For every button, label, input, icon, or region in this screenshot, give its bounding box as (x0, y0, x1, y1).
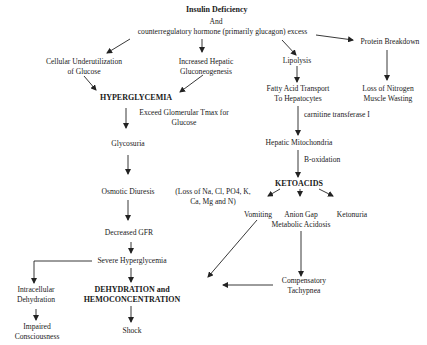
node-line: Loss of Nitrogen (358, 84, 418, 94)
node-ketonuria: Ketonuria (332, 210, 372, 220)
node-protein-breakdown: Protein Breakdown (355, 37, 425, 47)
arrow-vomiting-to-dehydration (208, 220, 257, 277)
node-fatty-acid-transport: Fatty Acid Transport To Hepatocytes (262, 84, 334, 103)
arrow-cellular-to-hyperglycemia (84, 76, 96, 90)
node-hyperglycemia: HYPERGLYCEMIA (96, 93, 176, 103)
node-line: Glucose (133, 118, 235, 128)
node-line: Tachypnea (278, 286, 330, 296)
node-line: HEMOCONCENTRATION (82, 295, 182, 305)
node-insulin-deficiency: Insulin Deficiency (186, 5, 246, 15)
dka-pathophysiology-diagram: Insulin Deficiency And counterregulatory… (0, 0, 427, 345)
node-cellular-underutilization: Cellular Underutilization of Glucose (40, 57, 128, 76)
node-impaired-consciousness: Impaired Consciousness (12, 322, 62, 341)
node-dehydration-hemoconcentration: DEHYDRATION and HEMOCONCENTRATION (82, 285, 182, 304)
edge-label-glomerular-tmax: Exceed Glomerular Tmax for Glucose (133, 108, 235, 127)
node-hepatic-mitochondria: Hepatic Mitochondria (260, 138, 338, 148)
node-line: Muscle Wasting (358, 94, 418, 104)
node-line: Gluconeogenesis (168, 67, 244, 77)
node-lipolysis: Lipolysis (274, 56, 320, 66)
node-line: DEHYDRATION and (82, 285, 182, 295)
arrow-ketoacids-to-vomiting (268, 189, 280, 196)
node-shock: Shock (112, 326, 152, 336)
node-loss-of-nitrogen: Loss of Nitrogen Muscle Wasting (358, 84, 418, 103)
node-severe-hyperglycemia: Severe Hyperglycemia (92, 256, 172, 266)
arrow-gluconeogenesis-to-hyperglycemia (180, 75, 203, 92)
node-glycosuria: Glycosuria (100, 139, 156, 149)
node-line: Impaired (12, 322, 62, 332)
node-line: Exceed Glomerular Tmax for (133, 108, 235, 118)
node-line: Anion Gap (270, 210, 332, 220)
arrow-layer (0, 0, 427, 345)
node-line: (Loss of Na, Cl, PO4, K, (170, 187, 256, 197)
node-intracellular-dehydration: Intracellular Dehydration (14, 285, 58, 304)
node-line: of Glucose (40, 67, 128, 77)
arrow-ketoacids-to-ketonuria (319, 189, 333, 196)
node-electrolyte-loss: (Loss of Na, Cl, PO4, K, Ca, Mg and N) (170, 187, 256, 206)
node-increased-hepatic-gluconeogenesis: Increased Hepatic Gluconeogenesis (168, 57, 244, 76)
node-compensatory-tachypnea: Compensatory Tachypnea (278, 276, 330, 295)
arrow-to-protein-breakdown (316, 35, 353, 40)
node-line: Compensatory (278, 276, 330, 286)
node-osmotic-diuresis: Osmotic Diuresis (96, 187, 160, 197)
node-line: Increased Hepatic (168, 57, 244, 67)
node-line: Dehydration (14, 295, 58, 305)
node-line: Ca, Mg and N) (170, 197, 256, 207)
node-line: Fatty Acid Transport (262, 84, 334, 94)
node-ketoacids: KETOACIDS (270, 179, 328, 189)
edge-label-carnitine-transferase: carnitine transferase I (304, 110, 370, 120)
arrow-severe-to-intracellular (34, 261, 92, 283)
edge-label-b-oxidation: B-oxidation (304, 155, 340, 165)
node-counterregulatory-excess: counterregulatory hormone (primarily glu… (130, 27, 315, 37)
node-decreased-gfr: Decreased GFR (98, 228, 160, 238)
node-line: Consciousness (12, 332, 62, 342)
arrow-to-lipolysis (282, 40, 296, 55)
arrow-to-cellular-underutilization (107, 39, 130, 53)
node-line: Metabolic Acidosis (270, 220, 332, 230)
node-and: And (196, 17, 236, 27)
node-anion-gap-acidosis: Anion Gap Metabolic Acidosis (270, 210, 332, 229)
node-line: Cellular Underutilization (40, 57, 128, 67)
node-line: To Hepatocytes (262, 94, 334, 104)
node-line: Intracellular (14, 285, 58, 295)
